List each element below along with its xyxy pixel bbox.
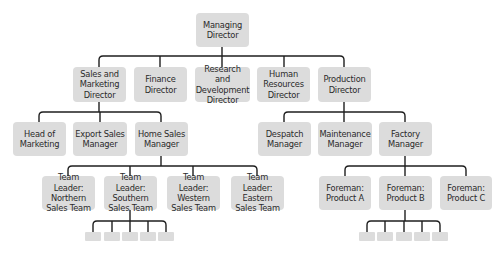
team-member-box bbox=[432, 232, 448, 241]
node-head-of-marketing: Head of Marketing bbox=[13, 122, 66, 156]
node-home-sales-manager: Home Sales Manager bbox=[135, 122, 188, 156]
node-label: Despatch Manager bbox=[259, 129, 310, 150]
node-team-leader-northern: Team Leader: Northern Sales Team bbox=[42, 176, 95, 210]
node-label: Team Leader: Western Sales Team bbox=[168, 172, 219, 214]
team-member-box bbox=[359, 232, 375, 241]
node-managing-director: Managing Director bbox=[196, 13, 249, 47]
node-label: Team Leader: Eastern Sales Team bbox=[232, 172, 283, 214]
node-label: Home Sales Manager bbox=[136, 129, 187, 150]
team-member-box bbox=[85, 232, 101, 241]
node-label: Human Resources Director bbox=[258, 69, 309, 100]
node-foreman-product-a: Foreman: Product A bbox=[319, 176, 371, 210]
node-label: Foreman: Product C bbox=[441, 183, 491, 204]
node-label: Production Director bbox=[319, 74, 370, 95]
node-label: Team Leader: Northern Sales Team bbox=[43, 172, 94, 214]
node-team-leader-eastern: Team Leader: Eastern Sales Team bbox=[231, 176, 284, 210]
node-foreman-product-b: Foreman: Product B bbox=[379, 176, 432, 210]
node-sales-marketing-director: Sales and Marketing Director bbox=[73, 67, 126, 102]
team-member-box bbox=[140, 232, 156, 241]
node-maintenance-manager: Maintenance Manager bbox=[318, 122, 372, 156]
node-label: Sales and Marketing Director bbox=[74, 69, 125, 100]
node-label: Foreman: Product A bbox=[320, 183, 370, 204]
node-production-director: Production Director bbox=[318, 67, 371, 102]
node-label: Research and Development Director bbox=[196, 64, 250, 106]
node-hr-director: Human Resources Director bbox=[257, 67, 310, 102]
node-label: Finance Director bbox=[135, 74, 186, 95]
team-member-box bbox=[396, 232, 412, 241]
team-member-box bbox=[104, 232, 120, 241]
node-label: Maintenance Manager bbox=[319, 129, 371, 150]
node-label: Head of Marketing bbox=[14, 129, 65, 150]
node-rnd-director: Research and Development Director bbox=[195, 67, 250, 102]
team-member-box bbox=[377, 232, 393, 241]
team-member-box bbox=[122, 232, 138, 241]
node-label: Foreman: Product B bbox=[380, 183, 431, 204]
org-chart: Managing Director Sales and Marketing Di… bbox=[0, 0, 502, 253]
team-member-box bbox=[158, 232, 174, 241]
team-member-box bbox=[414, 232, 430, 241]
node-despatch-manager: Despatch Manager bbox=[258, 122, 311, 156]
node-team-leader-southern: Team Leader: Southern Sales Team bbox=[104, 176, 157, 210]
node-team-leader-western: Team Leader: Western Sales Team bbox=[167, 176, 220, 210]
node-finance-director: Finance Director bbox=[134, 67, 187, 102]
node-factory-manager: Factory Manager bbox=[379, 122, 432, 156]
node-label: Export Sales Manager bbox=[74, 129, 126, 150]
node-label: Factory Manager bbox=[380, 129, 431, 150]
node-label: Managing Director bbox=[197, 20, 248, 41]
node-export-sales-manager: Export Sales Manager bbox=[73, 122, 127, 156]
node-label: Team Leader: Southern Sales Team bbox=[105, 172, 156, 214]
node-foreman-product-c: Foreman: Product C bbox=[440, 176, 492, 210]
